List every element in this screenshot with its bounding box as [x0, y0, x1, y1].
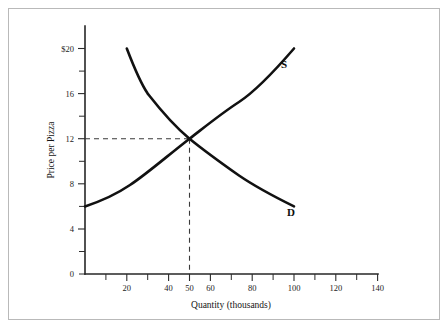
y-axis-tick-labels: 0 4 8 12 16 $20 — [61, 44, 75, 280]
y-tick-label-16: 16 — [66, 89, 75, 99]
x-tick-label-60: 60 — [206, 283, 215, 293]
y-axis-ticks — [78, 49, 85, 275]
supply-curve[interactable] — [85, 49, 294, 207]
figure-page: 0 4 8 12 16 $20 20 40 50 — [0, 0, 448, 328]
y-tick-label-8: 8 — [70, 179, 74, 189]
x-axis-title: Quantity (thousands) — [191, 300, 271, 311]
x-tick-label-140: 140 — [371, 283, 384, 293]
curve-labels: S D — [281, 58, 295, 218]
supply-curve-label: S — [281, 58, 287, 70]
y-tick-label-20: $20 — [61, 44, 74, 54]
y-tick-label-4: 4 — [70, 224, 75, 234]
demand-curve-label: D — [287, 206, 295, 218]
demand-curve[interactable] — [127, 49, 294, 207]
x-tick-label-20: 20 — [123, 283, 132, 293]
curves-group — [85, 49, 294, 207]
x-tick-label-80: 80 — [248, 283, 257, 293]
x-axis-ticks — [106, 274, 378, 281]
axes-group — [85, 26, 378, 274]
x-tick-label-100: 100 — [288, 283, 301, 293]
x-tick-label-120: 120 — [329, 283, 342, 293]
x-axis-tick-labels: 20 40 50 60 80 100 120 140 — [123, 283, 384, 293]
y-axis-title: Price per Pizza — [46, 121, 56, 179]
x-tick-label-40: 40 — [164, 283, 173, 293]
supply-demand-chart: 0 4 8 12 16 $20 20 40 50 — [0, 0, 448, 328]
equilibrium-guides — [85, 139, 190, 274]
x-tick-label-50: 50 — [185, 283, 194, 293]
y-tick-label-12: 12 — [66, 134, 75, 144]
y-tick-label-0: 0 — [70, 269, 74, 279]
